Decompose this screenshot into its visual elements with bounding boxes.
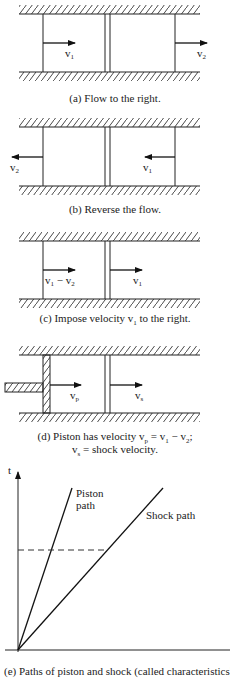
panel-b: v2 v1 xyxy=(10,118,200,195)
shock-path-line xyxy=(18,488,163,650)
caption-c: (c) Impose velocity v1 to the right. xyxy=(0,312,230,329)
velocity-label-v2: v2 xyxy=(197,47,207,61)
shock-path-label: Shock path xyxy=(146,509,196,521)
bottom-wall-hatch xyxy=(19,299,200,308)
velocity-label-v1: v1 xyxy=(65,47,75,61)
piston-label-line1: Piston xyxy=(76,487,104,499)
caption-a: (a) Flow to the right. xyxy=(0,92,230,104)
bottom-wall-hatch xyxy=(19,186,200,195)
caption-d-line2: vs = shock velocity. xyxy=(0,443,230,460)
bottom-wall-hatch xyxy=(19,72,200,81)
velocity-label-vs: vs xyxy=(135,389,144,403)
caption-b: (b) Reverse the flow. xyxy=(0,203,230,215)
velocity-label-vp: vp xyxy=(70,389,80,403)
panel-c: v1 − v2 v1 xyxy=(19,232,200,308)
top-wall-hatch xyxy=(19,118,200,127)
caption-e: (e) Paths of piston and shock (called ch… xyxy=(4,665,230,677)
panel-e: t Pistonpath Shock path xyxy=(5,464,230,652)
top-wall-hatch xyxy=(19,232,200,241)
velocity-label-v2: v2 xyxy=(10,161,20,175)
top-wall-hatch xyxy=(19,346,200,355)
piston-path-line xyxy=(18,488,72,650)
piston-path-label: Pistonpath xyxy=(76,487,104,511)
t-axis-label: t xyxy=(8,464,11,476)
velocity-label-v1: v1 xyxy=(143,161,153,175)
top-wall-hatch xyxy=(19,5,200,14)
piston-head xyxy=(43,355,50,413)
bottom-wall-hatch xyxy=(19,413,200,422)
velocity-label-v1-minus-v2: v1 − v2 xyxy=(45,274,75,288)
piston-rod xyxy=(5,383,43,392)
panel-a: v1 v2 xyxy=(19,5,207,81)
panel-d: vp vs xyxy=(5,346,200,422)
piston-label-line2: path xyxy=(76,499,95,511)
velocity-label-v1: v1 xyxy=(133,274,143,288)
